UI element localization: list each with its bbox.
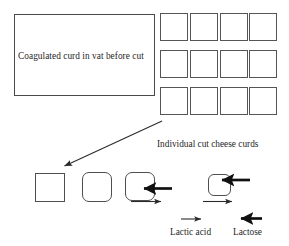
cheese-curd-diagram: Coagulated curd in vat before cut Indivi… bbox=[0, 0, 289, 246]
arrow-layer bbox=[0, 0, 289, 246]
legend-lactic-acid-label: Lactic acid bbox=[170, 226, 211, 238]
grid-to-stage-pointer-arrow bbox=[65, 121, 163, 166]
legend-lactose-label: Lactose bbox=[233, 226, 262, 238]
